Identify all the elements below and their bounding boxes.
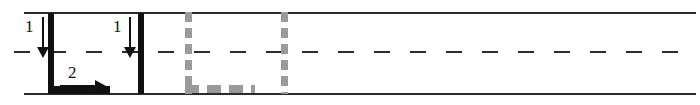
bottom-wall <box>24 93 696 95</box>
arrow-shaft <box>60 85 98 87</box>
top-wall <box>24 12 696 14</box>
centerline <box>14 51 698 53</box>
ghost-left-vertical-plate <box>185 12 192 94</box>
down-arrow-icon <box>36 17 50 57</box>
right-vertical-plate <box>138 13 144 94</box>
ghost-horizontal-base-bar <box>185 85 255 93</box>
annotation-label-1-left: 1 <box>25 18 34 35</box>
diagram-canvas: 1 1 2 <box>0 0 700 105</box>
arrow-head <box>124 47 136 58</box>
right-arrow-icon <box>60 80 106 92</box>
down-arrow-icon <box>123 17 137 57</box>
arrow-head <box>95 80 106 92</box>
arrow-shaft <box>42 17 44 50</box>
arrow-head <box>37 47 49 58</box>
annotation-label-1-right: 1 <box>113 18 122 35</box>
arrow-shaft <box>129 17 131 50</box>
annotation-label-2: 2 <box>68 64 77 81</box>
ghost-right-vertical-plate <box>281 12 288 94</box>
